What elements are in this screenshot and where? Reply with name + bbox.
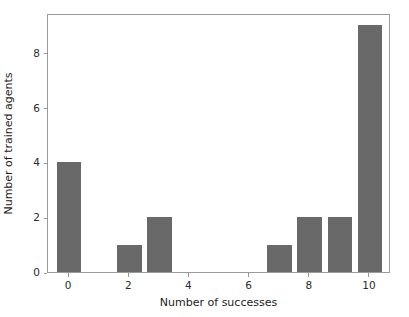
bar [297,217,322,272]
x-tick-mark [128,273,129,277]
bars-layer [48,15,389,272]
bar [57,162,82,272]
x-tick-label: 6 [229,279,269,292]
x-tick-label: 10 [349,279,389,292]
bar [117,245,142,272]
x-tick-mark [308,273,309,277]
x-tick-label: 0 [48,279,88,292]
bar [328,217,353,272]
y-tick-label: 4 [33,156,40,169]
x-tick-mark [68,273,69,277]
y-axis-label: Number of trained agents [0,14,16,273]
x-tick-mark [188,273,189,277]
x-tick-label: 4 [168,279,208,292]
y-tick-label: 2 [33,211,40,224]
bar-chart-figure: Number of trained agents 02468 0246810 N… [0,0,409,317]
y-tick-label: 8 [33,47,40,60]
plot-area [47,14,390,273]
x-tick-mark [368,273,369,277]
y-tick-label: 0 [33,266,40,279]
bar [267,245,292,272]
y-tick-label: 6 [33,102,40,115]
y-axis-label-text: Number of trained agents [2,72,15,214]
x-tick-label: 8 [289,279,329,292]
bar [358,25,383,272]
x-axis-label: Number of successes [47,296,390,309]
x-tick-label: 2 [108,279,148,292]
x-tick-mark [248,273,249,277]
bar [147,217,172,272]
